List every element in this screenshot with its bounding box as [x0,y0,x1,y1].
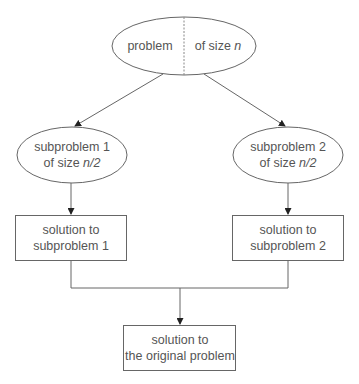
sub1-line2: of size n/2 [44,156,101,170]
sol2-line1: solution to [260,223,317,237]
sub2-line1: subproblem 2 [250,140,326,154]
divide-and-conquer-diagram: problem of size n subproblem 1 of size n… [0,0,359,384]
root-right-label: of size n [195,39,242,53]
final-line1: solution to [152,333,209,347]
solution-1-node: solution to subproblem 1 [16,216,127,261]
sol2-line2: subproblem 2 [250,239,326,253]
edge-root-to-sub2 [204,74,285,126]
subproblem-1-node: subproblem 1 of size n/2 [17,127,127,183]
solution-2-node: solution to subproblem 2 [233,216,344,261]
sub2-line2: of size n/2 [260,156,317,170]
final-solution-node: solution to the original problem [124,326,236,371]
merge-connector [71,261,288,288]
subproblem-2-node: subproblem 2 of size n/2 [233,127,343,183]
sub1-line1: subproblem 1 [34,140,110,154]
sol1-line2: subproblem 1 [33,239,109,253]
sol1-line1: solution to [43,223,100,237]
final-line2: the original problem [125,349,235,363]
root-left-label: problem [127,39,172,53]
edge-root-to-sub1 [75,74,163,126]
root-problem-node: problem of size n [112,17,256,75]
